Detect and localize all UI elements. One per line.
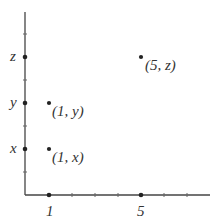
point-5-z <box>139 55 143 59</box>
plot-canvas: 1 5 x y z (1, x) (1, y) (5, z) <box>0 0 219 224</box>
y-tick-label-y: y <box>8 94 17 110</box>
y-tick-z-marker <box>23 55 28 60</box>
x-tick-label-5: 5 <box>137 203 145 219</box>
y-tick-label-z: z <box>9 48 16 64</box>
y-tick-y-marker <box>23 101 28 106</box>
point-label-1-x: (1, x) <box>52 149 84 166</box>
coordinate-diagram: 1 5 x y z (1, x) (1, y) (5, z) <box>0 0 219 224</box>
point-1-y <box>47 101 51 105</box>
point-label-1-y: (1, y) <box>52 103 84 120</box>
x-tick-label-1: 1 <box>46 203 54 219</box>
point-label-5-z: (5, z) <box>145 57 176 74</box>
x-tick-1-marker <box>47 193 52 198</box>
point-1-x <box>47 147 51 151</box>
y-tick-label-x: x <box>9 140 17 156</box>
x-tick-5-marker <box>139 193 144 198</box>
y-tick-x-marker <box>23 147 28 152</box>
